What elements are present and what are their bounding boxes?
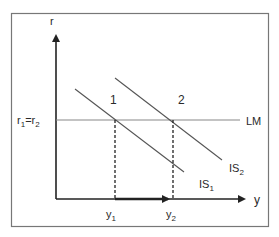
y-axis-label: r (50, 15, 54, 27)
equilibrium-2-label: 2 (178, 93, 185, 107)
is-lm-diagram: r y r1=r2 LM IS2 IS1 1 2 y1 y2 (0, 0, 279, 237)
is2-curve (115, 78, 222, 160)
equilibrium-1-label: 1 (110, 93, 117, 107)
is2-label: IS2 (229, 162, 244, 177)
y1-label: y1 (106, 208, 117, 223)
interest-rate-label: r1=r2 (17, 114, 40, 129)
is1-label: IS1 (199, 178, 214, 193)
y2-label: y2 (166, 208, 177, 223)
x-axis-label: y (254, 193, 260, 207)
lm-label: LM (246, 115, 261, 127)
is1-curve (75, 89, 184, 172)
